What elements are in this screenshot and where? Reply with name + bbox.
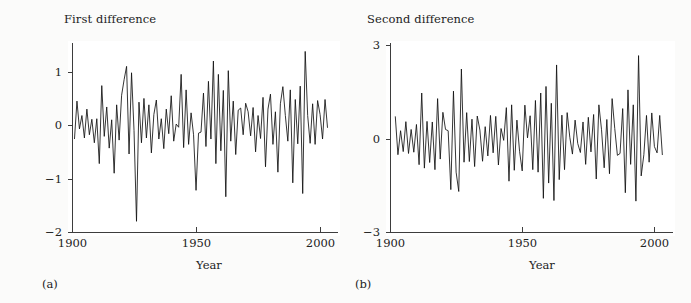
panel-second-difference: Second difference 3 0 −3 1900 1950 2000 … [345,0,691,303]
x-tick-label: 1900 [369,238,413,250]
panel-a-title: First difference [64,14,156,26]
second-difference-plot [345,0,691,303]
x-axis-label: Year [179,260,239,272]
panel-b-caption: (b) [355,279,371,291]
x-tick-label: 1950 [175,238,219,250]
figure-container: First difference 1 0 −1 −2 1900 1950 200… [0,0,691,303]
y-tick-label: 1 [36,67,62,79]
x-tick-label: 1900 [51,238,95,250]
first-difference-plot [0,0,346,303]
x-tick-label: 2000 [633,238,677,250]
y-tick-label: 0 [36,120,62,132]
x-tick-label: 2000 [299,238,343,250]
panel-b-title: Second difference [367,14,475,26]
y-tick-label: −1 [36,174,62,186]
x-axis-label: Year [512,260,572,272]
panel-a-caption: (a) [42,279,58,291]
y-tick-label: 3 [354,40,380,52]
y-tick-label: 0 [354,134,380,146]
x-tick-label: 1950 [501,238,545,250]
panel-first-difference: First difference 1 0 −1 −2 1900 1950 200… [0,0,346,303]
